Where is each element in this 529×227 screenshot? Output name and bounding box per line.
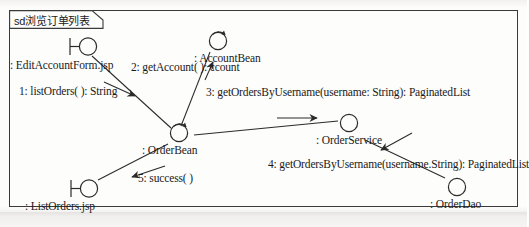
message-1-label: 1: listOrders( ): String: [19, 85, 117, 97]
scan-artifact-shadow: [0, 212, 527, 216]
node-label: : OrderBean: [142, 144, 197, 156]
node-label: : ListOrders.jsp: [25, 200, 95, 212]
node-label: : OrderDao: [430, 198, 481, 210]
boundary-icon: [68, 36, 102, 58]
node-label: : EditAccountForm.jsp: [10, 59, 113, 71]
boundary-icon: [69, 178, 103, 200]
entity-icon: [338, 112, 360, 134]
scan-artifact-top: [0, 0, 527, 8]
node-label: : OrderService: [316, 134, 382, 146]
message-3-label: 3: getOrdersByUsername(username: String)…: [206, 86, 470, 98]
message-4-label: 4: getOrdersByUsername(username.String):…: [268, 158, 529, 170]
control-icon: [164, 118, 194, 144]
control-icon: [203, 26, 233, 52]
entity-icon: [446, 176, 468, 198]
message-2-label: 2: getAccount( ): ccount: [131, 61, 240, 73]
frame-label: sd浏览订单列表: [14, 12, 90, 28]
message-5-label: 5: success( ): [138, 172, 193, 184]
